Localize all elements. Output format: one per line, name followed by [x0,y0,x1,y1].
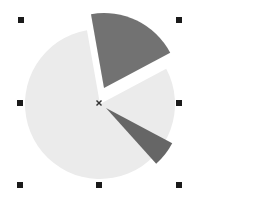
resize-handle-middle-right[interactable] [176,100,182,106]
resize-handle-bottom-center[interactable] [96,182,102,188]
pie-chart[interactable] [0,0,259,201]
resize-handle-bottom-left[interactable] [17,182,23,188]
resize-handle-middle-left[interactable] [17,100,23,106]
resize-handle-bottom-right[interactable] [176,182,182,188]
resize-handle-top-right[interactable] [176,17,182,23]
resize-handle-top-left[interactable] [18,17,24,23]
